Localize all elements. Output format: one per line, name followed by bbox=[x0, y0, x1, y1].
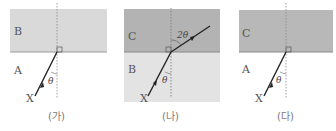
panel-caption: (가) bbox=[48, 111, 65, 122]
refracted-angle-label: 2θ bbox=[176, 30, 189, 40]
medium-label-lower: A bbox=[241, 63, 251, 76]
medium-c-region bbox=[124, 9, 220, 52]
incident-angle-label: θ bbox=[162, 75, 168, 85]
ray-label: X bbox=[26, 92, 34, 105]
medium-label-upper: C bbox=[128, 30, 136, 43]
angle-arc bbox=[51, 72, 57, 74]
panel-da: C A θ X (다) bbox=[239, 3, 333, 122]
diagram-canvas: B A θ X (가) C B θ 2θ X (나) C A θ X bbox=[0, 0, 336, 131]
incident-angle-label: θ bbox=[48, 76, 54, 86]
ray-label: X bbox=[140, 92, 148, 105]
ray-label: X bbox=[255, 92, 263, 105]
medium-label-lower: B bbox=[128, 63, 136, 76]
incident-angle-label: θ bbox=[276, 75, 282, 85]
medium-label-upper: C bbox=[242, 27, 250, 40]
light-ray bbox=[35, 52, 57, 96]
angle-arc bbox=[280, 72, 286, 74]
medium-label-lower: A bbox=[13, 64, 23, 77]
panel-na: C B θ 2θ X (나) bbox=[124, 8, 220, 122]
medium-label-upper: B bbox=[14, 25, 22, 38]
medium-b-region bbox=[124, 52, 220, 102]
panel-caption: (다) bbox=[277, 111, 294, 122]
light-ray bbox=[264, 52, 286, 96]
panel-ga: B A θ X (가) bbox=[10, 3, 107, 122]
panel-caption: (나) bbox=[162, 111, 179, 122]
medium-b-region bbox=[10, 9, 107, 52]
